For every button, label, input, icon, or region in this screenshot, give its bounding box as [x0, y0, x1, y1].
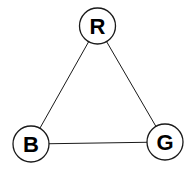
graph-svg: R B G: [0, 0, 193, 174]
triangle-graph-diagram: R B G: [0, 0, 193, 174]
node-b: B: [13, 126, 49, 162]
edge-r-b: [31, 26, 98, 144]
node-r-label: R: [90, 14, 106, 39]
node-g-label: G: [156, 130, 173, 155]
node-g: G: [147, 124, 183, 160]
node-b-label: B: [23, 132, 39, 157]
edge-b-g: [31, 142, 165, 144]
edge-r-g: [98, 26, 166, 142]
node-r: R: [80, 8, 116, 44]
nodes: R B G: [13, 8, 183, 162]
